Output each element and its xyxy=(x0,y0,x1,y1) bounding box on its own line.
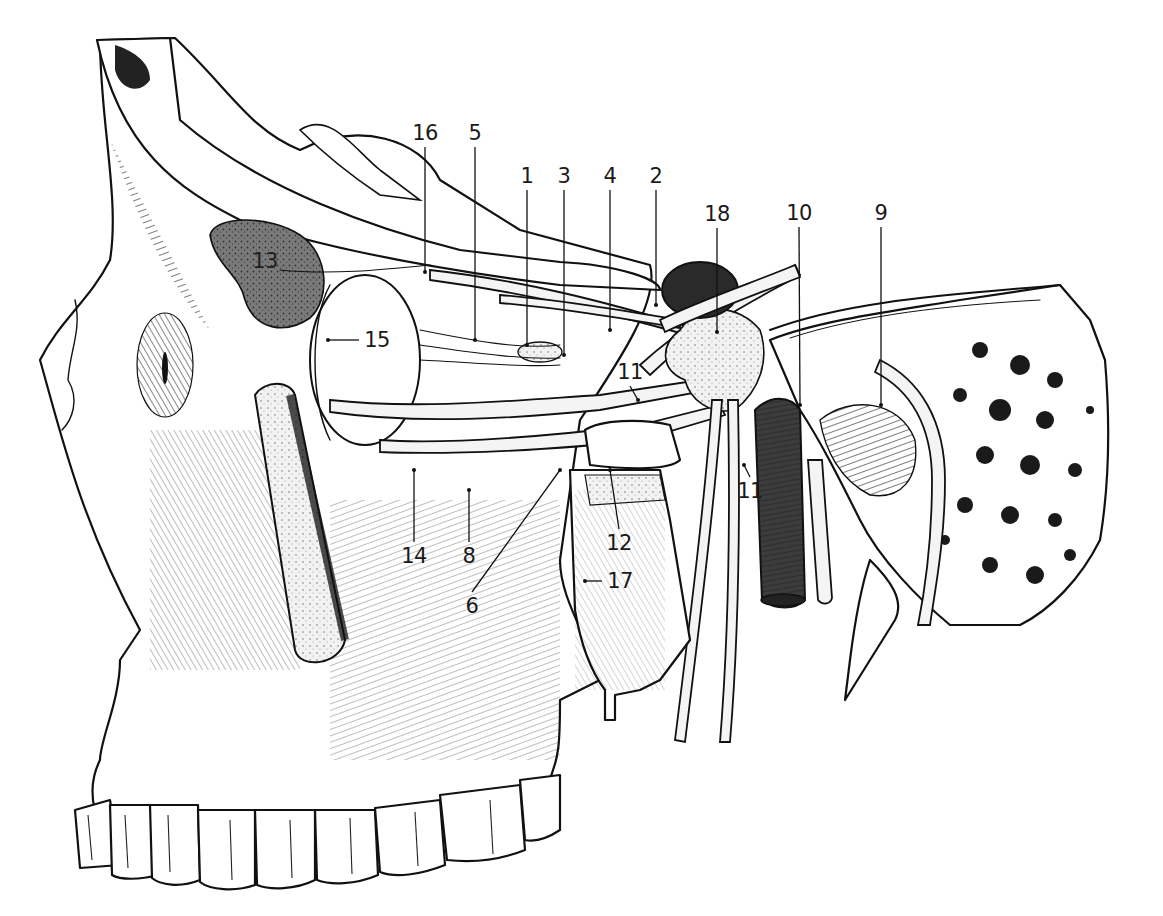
label-9: 9 xyxy=(875,203,888,224)
label-4: 4 xyxy=(604,166,617,187)
label-11-upper: 11 xyxy=(617,362,643,383)
label-5: 5 xyxy=(469,123,482,144)
leader-dot-16 xyxy=(423,270,427,274)
label-11-lower: 11 xyxy=(737,481,763,502)
leader-dot-5 xyxy=(473,338,477,342)
label-2: 2 xyxy=(650,166,663,187)
anatomical-illustration xyxy=(0,0,1163,916)
leader-dot-12 xyxy=(608,468,612,472)
leader-dot-18 xyxy=(715,330,719,334)
label-17: 17 xyxy=(607,571,633,592)
leader-dot-4 xyxy=(608,328,612,332)
label-18: 18 xyxy=(704,204,730,225)
label-6: 6 xyxy=(466,596,479,617)
leader-dot-3 xyxy=(562,353,566,357)
leader-dot-2 xyxy=(654,303,658,307)
leader-dot-15 xyxy=(326,338,330,342)
leader-dot-11b xyxy=(742,463,746,467)
leader-dot-1 xyxy=(525,343,529,347)
label-16: 16 xyxy=(412,123,438,144)
label-14: 14 xyxy=(401,546,427,567)
label-10: 10 xyxy=(786,203,812,224)
leader-dot-8 xyxy=(467,488,471,492)
label-12: 12 xyxy=(606,533,632,554)
label-13: 13 xyxy=(252,251,278,272)
leader-line-11b xyxy=(744,465,750,477)
label-1: 1 xyxy=(521,166,534,187)
leader-dot-11a xyxy=(636,398,640,402)
label-15: 15 xyxy=(364,330,390,351)
leader-dot-6 xyxy=(558,468,562,472)
leader-dot-9 xyxy=(879,403,883,407)
orbit-ring xyxy=(310,275,420,445)
leader-dot-17 xyxy=(583,579,587,583)
label-8: 8 xyxy=(463,546,476,567)
leader-dot-10 xyxy=(798,403,802,407)
label-3: 3 xyxy=(558,166,571,187)
leader-dot-14 xyxy=(412,468,416,472)
